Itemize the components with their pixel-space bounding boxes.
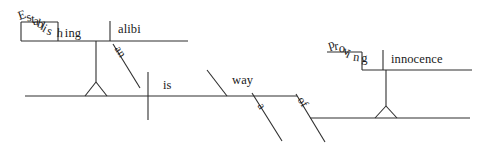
word-is: is [163, 79, 172, 92]
predicate-nominative-slant [207, 70, 227, 96]
word-proving: proving [328, 38, 368, 51]
gerund-proving-pedestal-left [375, 106, 386, 118]
word-way: way [232, 74, 253, 87]
letter: g [75, 27, 81, 40]
sentence-diagram: Establishing alibi an is way a of provin… [0, 0, 480, 152]
gerund-subject-pedestal-left [85, 82, 96, 96]
gerund-subject-pedestal-right [96, 82, 107, 96]
word-innocence: innocence [391, 53, 443, 66]
word-alibi: alibi [118, 23, 141, 36]
article-a-slant [252, 93, 282, 141]
gerund-proving-pedestal-right [386, 106, 397, 118]
word-establishing: Establishing [18, 9, 81, 22]
letter: g [361, 52, 367, 65]
